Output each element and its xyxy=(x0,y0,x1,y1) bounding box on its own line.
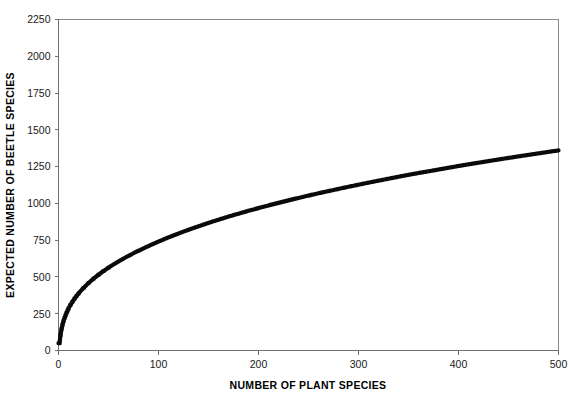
data-point-marker xyxy=(82,286,86,290)
x-tick-label: 200 xyxy=(250,358,268,370)
y-tick-label: 250 xyxy=(33,308,51,320)
x-tick-label: 0 xyxy=(56,358,62,370)
chart-figure: 0250500750100012501500175020002250 01002… xyxy=(0,0,574,398)
data-point-marker xyxy=(67,307,71,311)
x-tick-label: 400 xyxy=(450,358,468,370)
y-tick-label: 1250 xyxy=(27,160,51,172)
y-tick-label: 0 xyxy=(45,344,51,356)
y-tick-label: 750 xyxy=(33,234,51,246)
data-point-marker xyxy=(92,277,96,281)
data-point-marker xyxy=(102,269,106,273)
y-axis-title: EXPECTED NUMBER OF BEETLE SPECIES xyxy=(4,72,16,298)
data-point-marker xyxy=(58,341,62,345)
x-axis-title: NUMBER OF PLANT SPECIES xyxy=(230,379,387,391)
x-tick-label: 100 xyxy=(150,358,168,370)
y-tick-label: 500 xyxy=(33,271,51,283)
data-point-marker xyxy=(69,303,73,307)
x-tick-label: 500 xyxy=(550,358,568,370)
y-tick-label: 1500 xyxy=(27,124,51,136)
y-tick-label: 1750 xyxy=(27,87,51,99)
y-tick-label: 2000 xyxy=(27,50,51,62)
data-point-marker xyxy=(87,281,91,285)
data-point-marker xyxy=(60,327,64,331)
data-point-marker xyxy=(97,273,101,277)
y-tick-label: 1000 xyxy=(27,197,51,209)
chart-canvas: 0250500750100012501500175020002250 01002… xyxy=(0,0,574,398)
y-tick-label: 2250 xyxy=(27,13,51,25)
x-tick-label: 300 xyxy=(350,358,368,370)
data-point-marker xyxy=(59,333,63,337)
data-point-marker xyxy=(61,323,65,327)
data-point-marker xyxy=(107,266,111,270)
data-point-marker xyxy=(77,292,81,296)
